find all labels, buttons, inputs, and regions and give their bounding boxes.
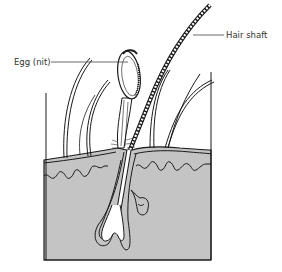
egg-label: Egg (nit)	[14, 57, 51, 67]
hair-shaft-label: Hair shaft	[226, 30, 267, 40]
nit-on-hair-diagram: Egg (nit) Hair shaft	[0, 0, 282, 272]
diagram-illustration	[0, 0, 282, 272]
